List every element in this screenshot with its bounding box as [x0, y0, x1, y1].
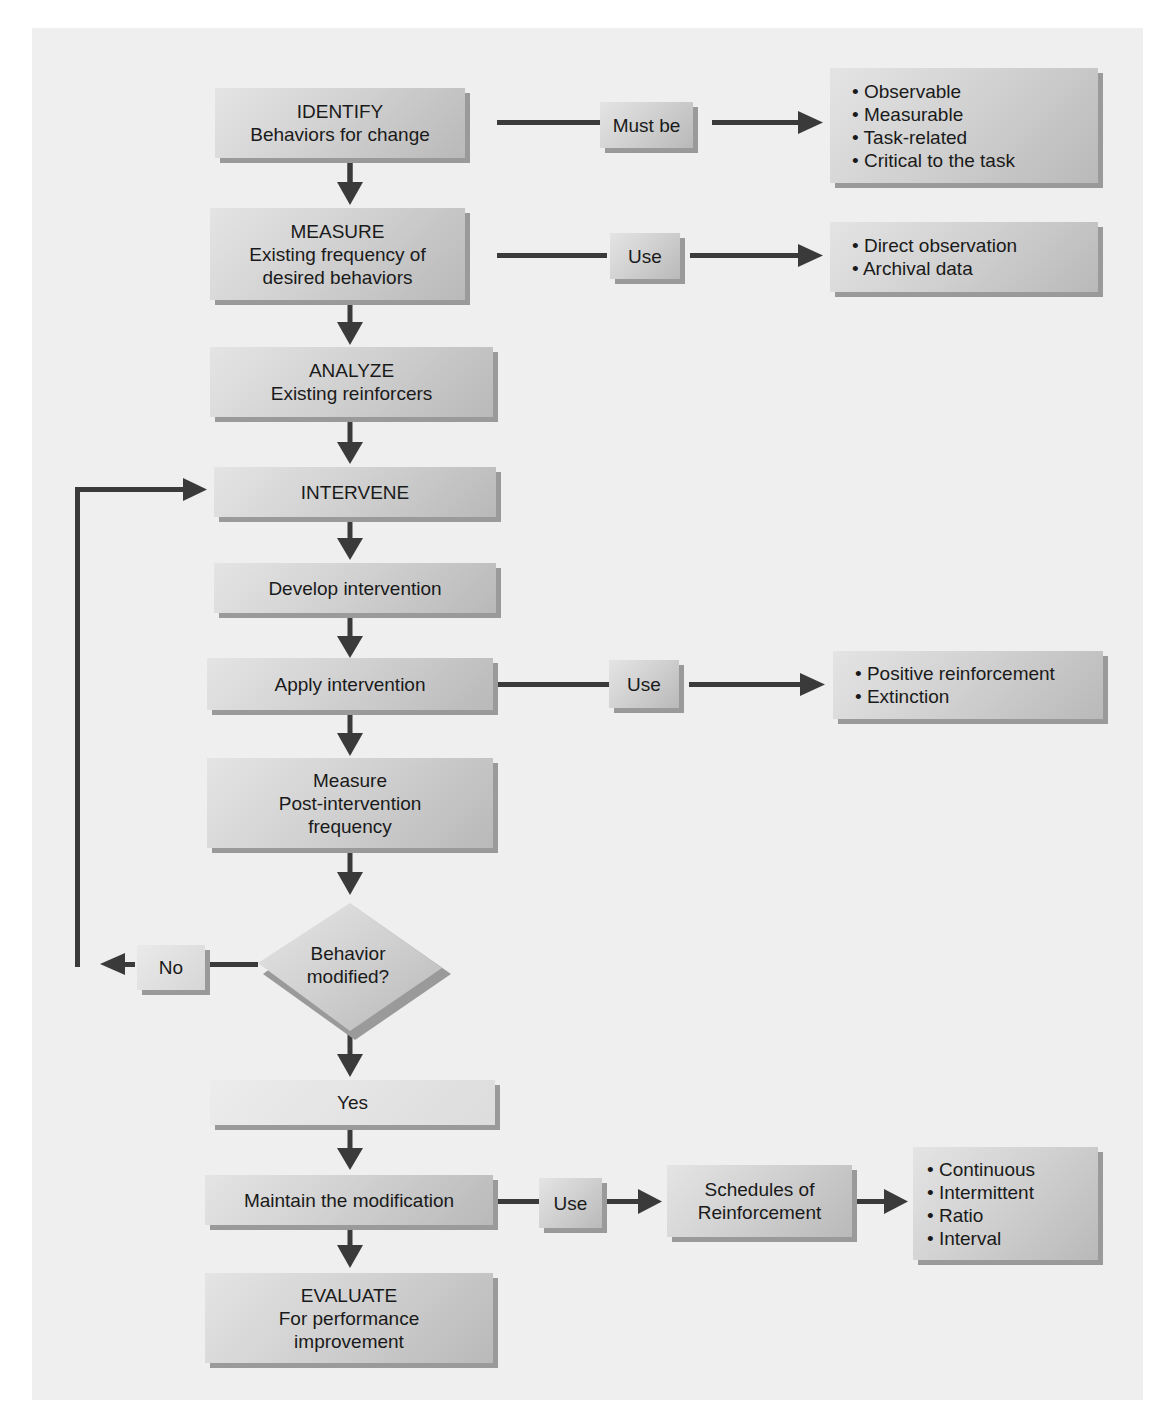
schedule-intermittent: • Intermittent: [927, 1181, 1034, 1204]
method-extinction: • Extinction: [855, 685, 949, 708]
must-be-label: Must be: [613, 114, 681, 137]
identify-subtitle: Behaviors for change: [250, 123, 430, 146]
evaluate-box: EVALUATE For performance improvement: [205, 1273, 493, 1363]
develop-intervention-box: Develop intervention: [214, 563, 496, 613]
decision-text: Behavior modified?: [268, 935, 428, 995]
intervene-title: INTERVENE: [301, 481, 409, 504]
yes-label-box: Yes: [210, 1080, 495, 1125]
use-apply-box: Use: [609, 660, 679, 708]
method-direct-observation: • Direct observation: [852, 234, 1017, 257]
decision-line1: Behavior: [311, 942, 386, 965]
evaluate-line2: improvement: [294, 1330, 404, 1353]
measure-line2: desired behaviors: [263, 266, 413, 289]
apply-intervention-label: Apply intervention: [274, 673, 425, 696]
schedule-interval: • Interval: [927, 1227, 1001, 1250]
develop-intervention-label: Develop intervention: [268, 577, 441, 600]
measure-post-box: Measure Post-intervention frequency: [207, 758, 493, 848]
no-label-box: No: [137, 945, 205, 990]
use-maintain-label: Use: [554, 1192, 588, 1215]
schedules-line1: Schedules of: [705, 1178, 815, 1201]
evaluate-title: EVALUATE: [301, 1284, 397, 1307]
no-label: No: [159, 956, 183, 979]
yes-label: Yes: [337, 1091, 368, 1114]
analyze-subtitle: Existing reinforcers: [271, 382, 433, 405]
analyze-title: ANALYZE: [309, 359, 394, 382]
schedule-ratio: • Ratio: [927, 1204, 983, 1227]
measure-methods-box: • Direct observation • Archival data: [830, 222, 1098, 292]
evaluate-line1: For performance: [279, 1307, 419, 1330]
schedule-continuous: • Continuous: [927, 1158, 1035, 1181]
use-measure-box: Use: [610, 233, 680, 279]
measure-post-line3: frequency: [308, 815, 391, 838]
schedules-line2: Reinforcement: [698, 1201, 822, 1224]
measure-post-line2: Post-intervention: [279, 792, 422, 815]
maintain-label: Maintain the modification: [244, 1189, 454, 1212]
criteria-observable: • Observable: [852, 80, 961, 103]
identify-box: IDENTIFY Behaviors for change: [215, 88, 465, 158]
maintain-box: Maintain the modification: [205, 1175, 493, 1225]
identify-title: IDENTIFY: [297, 100, 384, 123]
method-archival-data: • Archival data: [852, 257, 973, 280]
apply-intervention-box: Apply intervention: [207, 658, 493, 710]
identify-criteria-box: • Observable • Measurable • Task-related…: [830, 68, 1098, 183]
analyze-box: ANALYZE Existing reinforcers: [210, 347, 493, 417]
must-be-box: Must be: [600, 102, 693, 148]
criteria-critical: • Critical to the task: [852, 149, 1015, 172]
use-measure-label: Use: [628, 245, 662, 268]
measure-line1: Existing frequency of: [249, 243, 425, 266]
criteria-measurable: • Measurable: [852, 103, 963, 126]
schedules-box: Schedules of Reinforcement: [667, 1165, 852, 1237]
measure-title: MEASURE: [291, 220, 385, 243]
schedule-types-box: • Continuous • Intermittent • Ratio • In…: [913, 1147, 1098, 1260]
measure-post-line1: Measure: [313, 769, 387, 792]
method-positive-reinforcement: • Positive reinforcement: [855, 662, 1055, 685]
measure-box: MEASURE Existing frequency of desired be…: [210, 208, 465, 300]
criteria-task-related: • Task-related: [852, 126, 967, 149]
decision-line2: modified?: [307, 965, 389, 988]
use-maintain-box: Use: [539, 1178, 602, 1228]
intervene-box: INTERVENE: [214, 467, 496, 517]
use-apply-label: Use: [627, 673, 661, 696]
apply-methods-box: • Positive reinforcement • Extinction: [833, 651, 1103, 719]
